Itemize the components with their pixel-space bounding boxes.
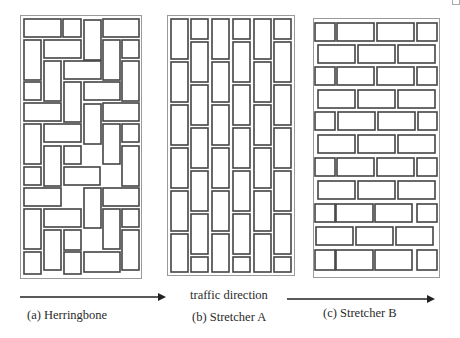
page-corner-mark xyxy=(452,0,460,5)
traffic-arrow-right xyxy=(285,294,437,304)
stretcher-a-pattern xyxy=(168,16,294,275)
herringbone-pattern xyxy=(21,16,141,278)
panel-stretcher-a xyxy=(167,15,295,276)
traffic-arrow-left xyxy=(18,292,168,302)
panel-a-caption: (a) Herringbone xyxy=(27,308,107,323)
traffic-direction-label: traffic direction xyxy=(190,288,268,303)
stretcher-b-pattern xyxy=(314,19,439,277)
panel-stretcher-b xyxy=(313,18,440,278)
panel-c-caption: (c) Stretcher B xyxy=(323,306,397,321)
panel-herringbone xyxy=(20,15,142,279)
panel-b-caption: (b) Stretcher A xyxy=(192,310,266,325)
